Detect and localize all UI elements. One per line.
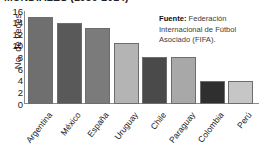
x-tick-label: Argentina [24, 110, 54, 145]
y-tick-label: 14 [1, 18, 23, 27]
x-tick-label: Uruguay [112, 110, 140, 141]
y-tick-label: 12 [1, 30, 23, 39]
chart-title-text: MUNDIALES (1930-2014) [4, 0, 204, 3]
source-note-label: Fuente: [159, 14, 186, 23]
y-tick-label: 0 [1, 100, 23, 109]
bar [114, 43, 139, 104]
y-tick-label: 10 [1, 41, 23, 50]
bar [85, 28, 110, 104]
bar [171, 57, 196, 104]
y-tick-label: 6 [1, 65, 23, 74]
x-tick-label: Perú [235, 110, 254, 130]
bar [28, 17, 53, 104]
bar [57, 23, 82, 104]
y-axis-line [24, 11, 25, 104]
x-tick-label: Colombia [195, 110, 225, 144]
chart-title-clipped: MUNDIALES (1930-2014) [4, 0, 204, 4]
x-tick-label: México [58, 110, 82, 137]
x-tick-label: España [85, 110, 111, 139]
y-tick-label: 4 [1, 76, 23, 85]
y-tick-label: 8 [1, 53, 23, 62]
chart-figure: MUNDIALES (1930-2014) No. de veces 16141… [0, 0, 266, 151]
source-note: Fuente: Federación Internacional de Fútb… [159, 14, 263, 46]
bar [200, 81, 225, 104]
x-tick-label: Chile [148, 110, 168, 131]
bar [228, 81, 253, 104]
y-tick-label: 16 [1, 7, 23, 16]
bar [142, 57, 167, 104]
x-tick-label: Paraguay [167, 110, 197, 145]
y-axis-ticks: 1614121086420 [0, 11, 23, 104]
y-tick-label: 2 [1, 88, 23, 97]
